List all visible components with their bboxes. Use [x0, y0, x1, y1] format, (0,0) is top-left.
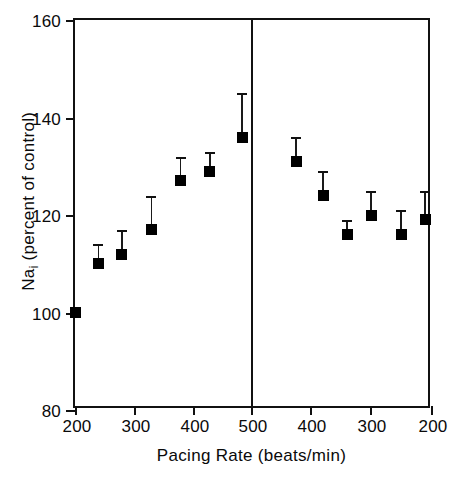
x-axis-tick: 200 [75, 406, 77, 415]
error-bar-cap [342, 220, 352, 222]
x-axis-tick-label: 500 [239, 417, 268, 437]
data-marker [318, 190, 329, 201]
data-marker [204, 166, 215, 177]
data-marker [237, 132, 248, 143]
error-bar-cap [93, 244, 103, 246]
plot-area: 80100120140160200300400500400300200 [73, 18, 430, 408]
data-marker [93, 258, 104, 269]
y-axis-title-main: Na [19, 268, 38, 290]
data-marker [116, 249, 127, 260]
x-axis-tick: 200 [431, 406, 433, 415]
error-bar-cap [420, 191, 430, 193]
data-marker [420, 214, 431, 225]
y-axis-tick-label: 160 [32, 12, 61, 32]
x-axis-tick: 300 [370, 406, 372, 415]
data-marker [342, 229, 353, 240]
phase-divider-line [251, 20, 253, 406]
error-bar-cap [366, 191, 376, 193]
y-axis-title-rest: (percent of control) [19, 112, 38, 266]
chart-figure: 80100120140160200300400500400300200 Paci… [0, 0, 455, 477]
data-marker [146, 224, 157, 235]
error-bar-cap [396, 210, 406, 212]
x-axis-tick: 400 [193, 406, 195, 415]
x-axis-tick-label: 400 [181, 417, 210, 437]
data-marker [175, 175, 186, 186]
x-axis-tick: 500 [251, 406, 253, 415]
data-marker [70, 307, 81, 318]
x-axis-tick: 300 [134, 406, 136, 415]
x-axis-tick-label: 200 [63, 417, 92, 437]
error-bar-cap [146, 196, 156, 198]
y-axis-title: Nai (percent of control) [19, 41, 41, 361]
x-axis-tick-label: 200 [419, 417, 448, 437]
error-bar-cap [291, 137, 301, 139]
x-axis-tick: 400 [310, 406, 312, 415]
x-axis-tick-label: 300 [122, 417, 151, 437]
error-bar [241, 93, 243, 137]
y-axis-tick: 80 [66, 410, 75, 412]
y-axis-tick-label: 80 [42, 402, 61, 422]
y-axis-tick: 120 [66, 215, 75, 217]
y-axis-title-subscript: i [27, 265, 41, 268]
error-bar-cap [318, 171, 328, 173]
data-marker [366, 210, 377, 221]
error-bar-cap [176, 157, 186, 159]
error-bar-cap [237, 93, 247, 95]
data-marker [396, 229, 407, 240]
y-axis-tick: 160 [66, 20, 75, 22]
x-axis-tick-label: 300 [358, 417, 387, 437]
error-bar-cap [117, 230, 127, 232]
error-bar-cap [205, 152, 215, 154]
x-axis-title: Pacing Rate (beats/min) [73, 446, 430, 466]
data-marker [291, 156, 302, 167]
y-axis-tick: 140 [66, 118, 75, 120]
x-axis-tick-label: 400 [298, 417, 327, 437]
